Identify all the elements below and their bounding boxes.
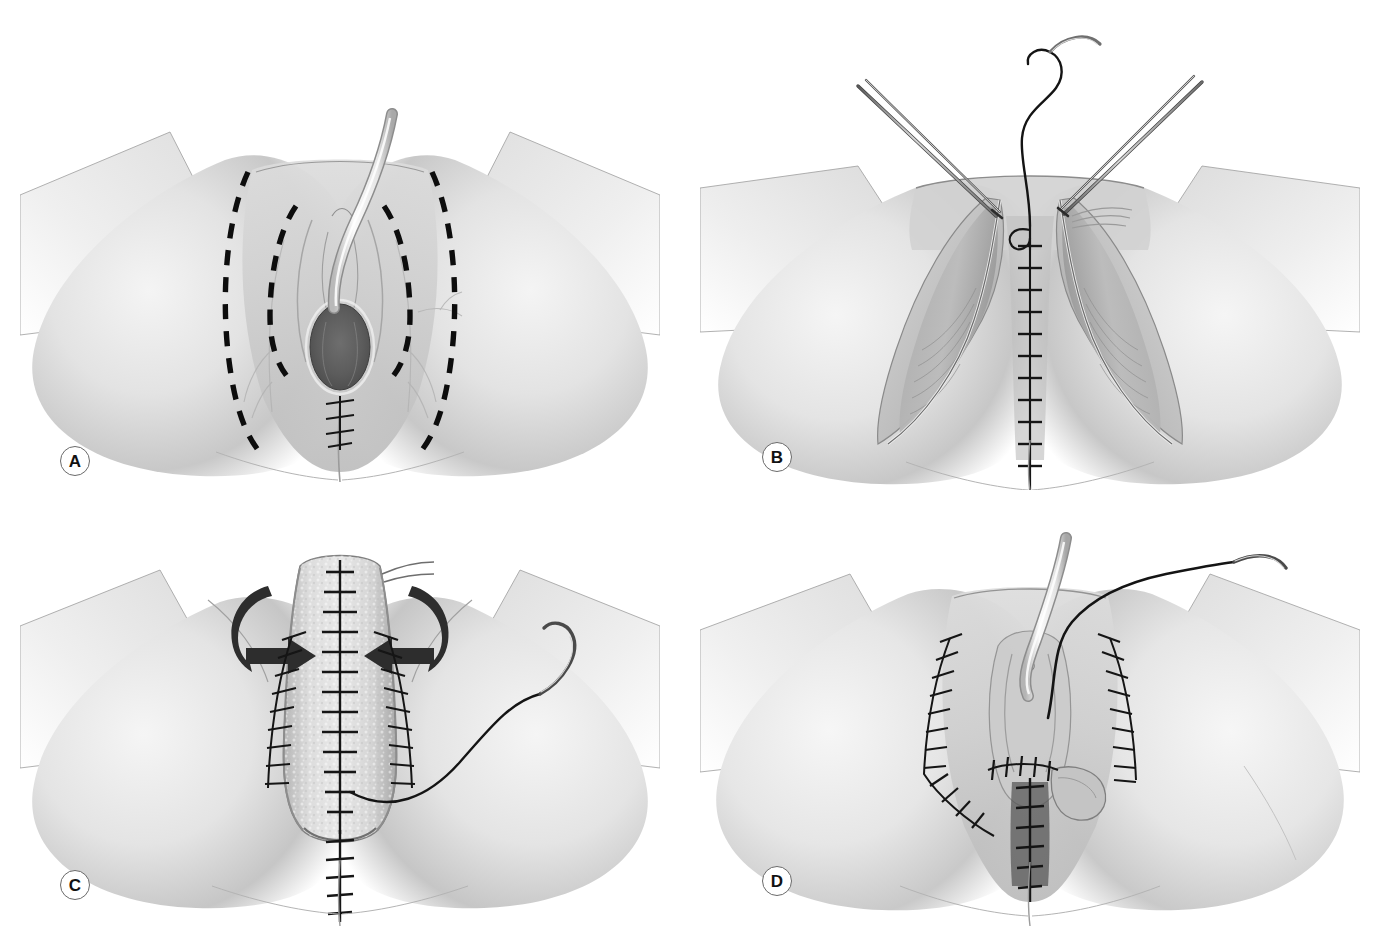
panel-a-illustration — [20, 100, 660, 500]
panel-label-b: B — [762, 442, 792, 472]
panel-label-a: A — [60, 446, 90, 476]
suture-tails — [382, 562, 434, 582]
curved-suture-needle — [1050, 37, 1100, 52]
panel-c-illustration — [20, 530, 660, 930]
panel-a — [20, 100, 660, 500]
panel-c — [20, 530, 660, 930]
panel-d — [700, 530, 1360, 930]
curved-suture-needle-hilight — [1052, 38, 1097, 51]
panel-label-a-text: A — [69, 453, 81, 470]
panel-label-d-text: D — [771, 873, 783, 890]
panel-label-c-text: C — [69, 877, 81, 894]
figure-root: A — [0, 0, 1376, 946]
panel-b — [700, 20, 1360, 490]
panel-label-b-text: B — [771, 449, 783, 466]
panel-b-illustration — [700, 20, 1360, 490]
panel-d-illustration — [700, 530, 1360, 930]
panel-label-c: C — [60, 870, 90, 900]
vaginal-introitus — [310, 304, 370, 390]
panel-label-d: D — [762, 866, 792, 896]
